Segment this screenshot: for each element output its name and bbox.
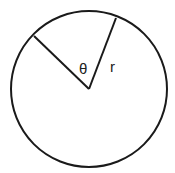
radius-label-r: r: [110, 58, 115, 75]
right-radius-line: [89, 18, 116, 89]
circle-sector-diagram: θ r: [0, 0, 175, 173]
angle-label-theta: θ: [79, 60, 87, 77]
